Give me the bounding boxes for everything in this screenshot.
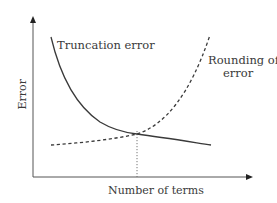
diagram-canvas	[0, 0, 277, 203]
x-axis-arrow-icon	[246, 174, 253, 180]
truncation-error-curve	[51, 37, 211, 145]
error-vs-terms-diagram: Truncation error Rounding off error Erro…	[0, 0, 277, 203]
y-axis-label: Error	[17, 80, 28, 110]
truncation-error-label: Truncation error	[57, 40, 155, 52]
x-axis-label: Number of terms	[108, 185, 204, 196]
rounding-error-label-line2: error	[223, 68, 253, 80]
y-axis-arrow-icon	[30, 16, 36, 23]
rounding-error-label-line1: Rounding off	[208, 55, 277, 67]
